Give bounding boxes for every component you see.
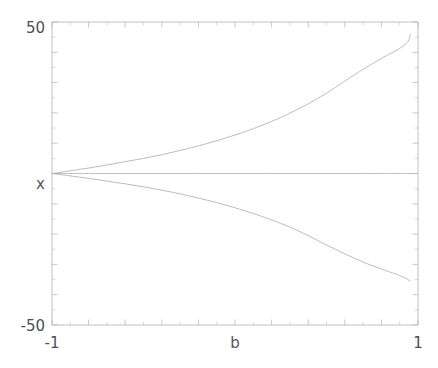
y-axis-label: x xyxy=(36,175,45,193)
bifurcation-plot-figure: 50 -50 x -1 1 b xyxy=(0,0,438,368)
y-tick-label-top: 50 xyxy=(26,19,45,37)
x-axis-label: b xyxy=(230,334,240,352)
y-tick-label-bottom: -50 xyxy=(21,317,46,335)
plot-svg: 50 -50 x -1 1 b xyxy=(0,0,438,368)
x-tick-label-left: -1 xyxy=(45,334,60,352)
x-tick-label-right: 1 xyxy=(413,334,423,352)
plot-background xyxy=(0,0,438,368)
